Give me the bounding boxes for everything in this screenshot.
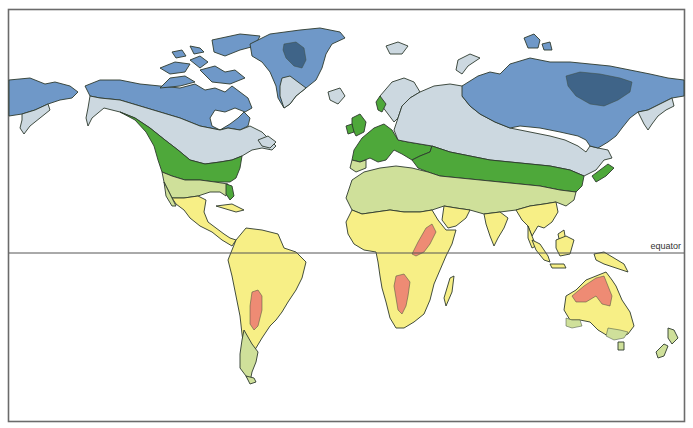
arctic-island (190, 46, 204, 54)
arabia (442, 206, 470, 228)
iberia-steppe (350, 160, 366, 172)
caribbean-island (216, 204, 244, 212)
india-tropical (484, 212, 508, 246)
arctic-island (190, 56, 208, 68)
south-america (228, 228, 306, 384)
madagascar (444, 276, 454, 306)
siberian-island (524, 34, 540, 48)
south-america-tropical (228, 228, 306, 360)
java (550, 264, 566, 268)
new-zealand-south (656, 344, 668, 358)
new-zealand-north (668, 328, 678, 344)
florida (226, 184, 234, 200)
north-america (9, 28, 345, 246)
tasmania (618, 342, 624, 350)
arctic-island (160, 62, 190, 74)
equator-label: equator (650, 241, 681, 251)
siberian-island (542, 42, 552, 50)
world-climate-map: equator (0, 0, 693, 428)
ireland (346, 124, 354, 134)
iceland (328, 88, 345, 104)
africa (346, 210, 456, 328)
svalbard (386, 42, 408, 54)
novaya-zemlya (456, 54, 480, 74)
sumatra (532, 240, 550, 262)
arctic-island (200, 66, 245, 84)
oceania (532, 236, 678, 358)
central-america-tropical (172, 196, 236, 246)
tierra-del-fuego (246, 376, 256, 384)
new-guinea (594, 252, 628, 272)
british-isles (352, 114, 366, 136)
arctic-island (172, 50, 186, 58)
